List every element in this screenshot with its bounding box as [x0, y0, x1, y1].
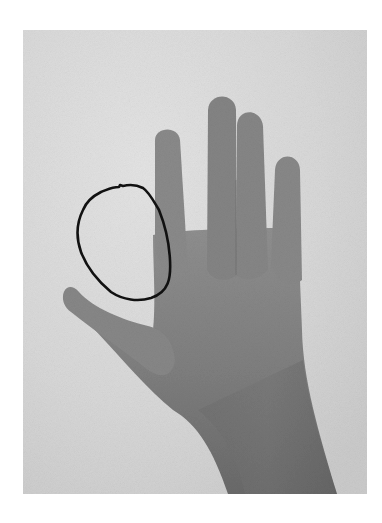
middle-finger — [207, 97, 237, 280]
ring-finger — [236, 112, 268, 279]
page-canvas — [0, 0, 382, 523]
hand-illustration — [23, 30, 367, 494]
hand-photo — [23, 30, 367, 494]
pinky-finger — [271, 157, 302, 285]
